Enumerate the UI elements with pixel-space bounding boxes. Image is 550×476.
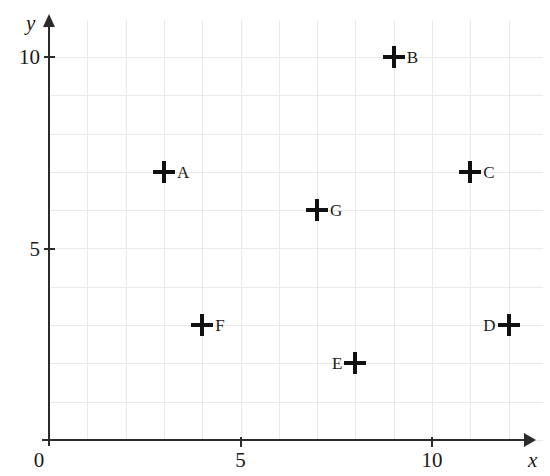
grid-line-horizontal xyxy=(49,248,543,249)
y-axis-line xyxy=(48,26,50,446)
cross-marker-icon xyxy=(507,314,511,336)
y-axis-tick xyxy=(44,56,55,58)
data-point-label: F xyxy=(215,317,224,334)
x-axis-line xyxy=(42,439,528,441)
grid-line-vertical xyxy=(87,20,88,440)
cross-marker-icon xyxy=(200,314,204,336)
grid-line-horizontal xyxy=(49,134,543,135)
x-axis-tick xyxy=(240,437,242,447)
grid-line-horizontal xyxy=(49,287,543,288)
y-axis-arrow-icon xyxy=(43,14,55,27)
plot-grid-area xyxy=(49,20,543,440)
grid-line-horizontal xyxy=(49,325,543,326)
grid-line-vertical xyxy=(202,20,203,440)
x-axis-tick-label: 0 xyxy=(34,450,45,471)
grid-line-vertical xyxy=(509,20,510,440)
grid-line-horizontal xyxy=(49,402,543,403)
scatter-plot-figure: 0510510 x y ABCDEFG xyxy=(0,0,550,476)
x-axis-tick-label: 5 xyxy=(235,450,246,471)
cross-marker-icon xyxy=(162,161,166,183)
y-axis-tick xyxy=(44,248,55,250)
x-axis-tick xyxy=(431,437,433,447)
grid-line-vertical xyxy=(241,20,242,440)
y-axis-tick-label: 10 xyxy=(0,47,40,68)
data-point-label: A xyxy=(177,164,189,181)
grid-line-horizontal xyxy=(49,363,543,364)
y-axis-label: y xyxy=(26,13,35,34)
x-axis-label: x xyxy=(528,450,537,471)
grid-line-vertical xyxy=(126,20,127,440)
grid-line-horizontal xyxy=(49,210,543,211)
cross-marker-icon xyxy=(392,46,396,68)
grid-line-horizontal xyxy=(49,57,543,58)
cross-marker-icon xyxy=(315,199,319,221)
cross-marker-icon xyxy=(353,352,357,374)
data-point-label: D xyxy=(483,317,495,334)
data-point-label: E xyxy=(332,355,342,372)
grid-line-vertical xyxy=(470,20,471,440)
data-point-label: G xyxy=(330,202,342,219)
grid-line-vertical xyxy=(355,20,356,440)
grid-line-horizontal xyxy=(49,95,543,96)
x-axis-arrow-icon xyxy=(524,433,536,447)
y-axis-tick-label: 5 xyxy=(0,238,40,259)
x-axis-tick-label: 10 xyxy=(422,450,443,471)
grid-line-vertical xyxy=(394,20,395,440)
cross-marker-icon xyxy=(468,161,472,183)
data-point-label: C xyxy=(483,164,494,181)
grid-line-vertical xyxy=(317,20,318,440)
grid-line-vertical xyxy=(432,20,433,440)
data-point-label: B xyxy=(407,49,418,66)
grid-line-vertical xyxy=(279,20,280,440)
grid-line-vertical xyxy=(164,20,165,440)
